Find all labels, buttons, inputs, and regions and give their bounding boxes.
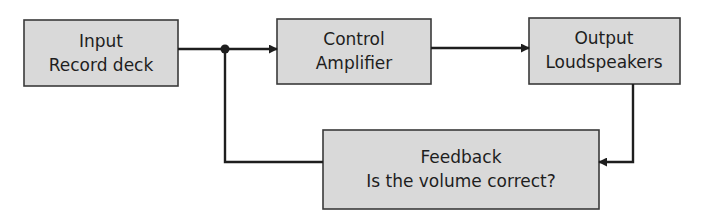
input-box [24, 20, 178, 86]
control-title: Control [323, 29, 384, 49]
feedback-box [323, 130, 599, 209]
feedback-title: Feedback [421, 147, 502, 167]
output-to-feedback-arrow [599, 84, 633, 162]
output-node: Output Loudspeakers [529, 18, 680, 84]
feedback-node: Feedback Is the volume correct? [323, 130, 599, 209]
feedback-subtitle: Is the volume correct? [366, 171, 556, 191]
input-node: Input Record deck [24, 20, 178, 86]
control-subtitle: Amplifier [316, 53, 393, 73]
output-title: Output [574, 28, 633, 48]
control-node: Control Amplifier [277, 19, 431, 84]
output-subtitle: Loudspeakers [545, 52, 662, 72]
input-subtitle: Record deck [49, 55, 154, 75]
feedback-loop-diagram: Input Record deck Control Amplifier Outp… [0, 0, 707, 223]
input-title: Input [79, 31, 123, 51]
summing-junction-dot [221, 45, 230, 54]
